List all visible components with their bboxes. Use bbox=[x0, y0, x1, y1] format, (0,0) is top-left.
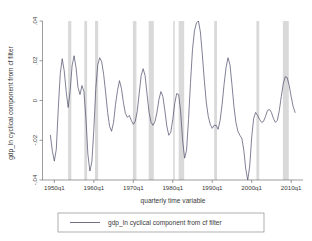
recession-band bbox=[173, 21, 175, 180]
cyclical-component-line-chart: .04.020-.02-.041950q11960q11970q11980q11… bbox=[0, 0, 312, 241]
recession-band bbox=[133, 21, 137, 180]
y-tick-label: -.04 bbox=[31, 174, 38, 185]
chart-background bbox=[0, 0, 312, 241]
recession-band bbox=[214, 21, 217, 180]
x-tick-label: 1960q1 bbox=[83, 184, 104, 191]
recession-band bbox=[149, 21, 154, 180]
x-tick-label: 2000q1 bbox=[241, 184, 262, 191]
x-tick-label: 1970q1 bbox=[123, 184, 144, 191]
x-tick-label: 1950q1 bbox=[44, 184, 65, 191]
y-tick-label: .04 bbox=[31, 16, 38, 25]
y-tick-label: 0 bbox=[31, 98, 38, 102]
y-tick-label: -.02 bbox=[31, 134, 38, 145]
legend-entry-label: gdp_ln cyclical component from cf filter bbox=[108, 219, 222, 227]
y-tick-label: .02 bbox=[31, 56, 38, 65]
recession-band bbox=[256, 21, 259, 180]
chart-container: .04.020-.02-.041950q11960q11970q11980q11… bbox=[0, 0, 312, 241]
recession-band bbox=[283, 21, 289, 180]
x-axis-title: quarterly time variable bbox=[141, 197, 206, 205]
x-tick-label: 1990q1 bbox=[202, 184, 223, 191]
x-tick-label: 1980q1 bbox=[162, 184, 183, 191]
x-tick-label: 2010q1 bbox=[281, 184, 302, 191]
y-axis-title: gdp_ln cyclical component from cf filter bbox=[7, 45, 15, 159]
